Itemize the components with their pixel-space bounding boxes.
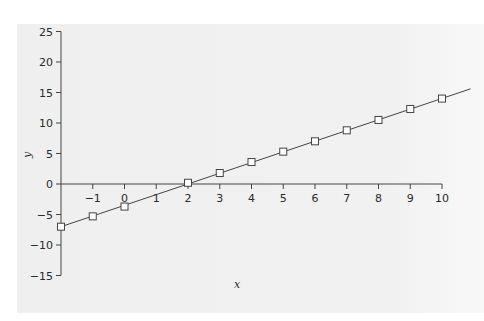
y-tick-label: 25 [39, 26, 53, 39]
data-point-marker [312, 138, 319, 145]
data-point-marker [439, 95, 446, 102]
data-point-marker [280, 148, 287, 155]
y-tick-label: −15 [30, 270, 53, 283]
data-point-marker [58, 223, 65, 230]
x-axis-title: x [234, 278, 241, 291]
data-point-marker [343, 127, 350, 134]
x-tick-label: 6 [312, 192, 319, 205]
x-tick-label: 5 [280, 192, 287, 205]
data-point-marker [89, 213, 96, 220]
x-tick-label: −1 [85, 192, 101, 205]
y-tick-label: 5 [46, 148, 53, 161]
x-tick-label: 3 [216, 192, 223, 205]
x-tick-label: 10 [435, 192, 449, 205]
y-tick-label: 0 [46, 178, 53, 191]
x-tick-label: 2 [185, 192, 192, 205]
data-point-marker [248, 159, 255, 166]
x-tick-label: 4 [248, 192, 255, 205]
y-axis-title: y [21, 151, 34, 159]
y-tick-label: 15 [39, 87, 53, 100]
line-chart: 2520151050−5−10−15−1012345678910xy [0, 0, 484, 321]
x-tick-label: 9 [407, 192, 414, 205]
x-tick-label: 8 [375, 192, 382, 205]
y-tick-label: 20 [39, 56, 53, 69]
data-point-marker [216, 170, 223, 177]
data-point-marker [185, 179, 192, 186]
y-tick-label: 10 [39, 117, 53, 130]
data-point-marker [121, 203, 128, 210]
y-tick-label: −5 [37, 209, 53, 222]
x-tick-label: 7 [343, 192, 350, 205]
data-point-marker [407, 105, 414, 112]
y-tick-label: −10 [30, 239, 53, 252]
data-point-marker [375, 116, 382, 123]
